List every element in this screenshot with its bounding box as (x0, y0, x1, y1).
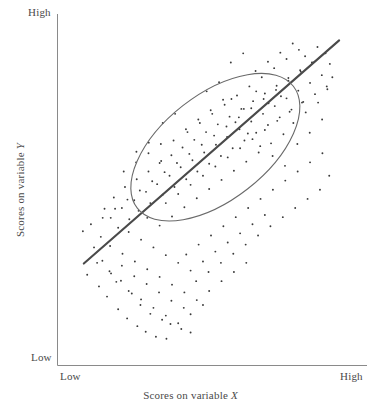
data-point (183, 307, 185, 309)
data-point (146, 283, 148, 285)
data-point (98, 285, 100, 287)
data-point (148, 171, 150, 173)
data-point (140, 298, 142, 300)
data-point (160, 160, 162, 162)
data-point (165, 338, 167, 340)
data-point (102, 217, 104, 219)
data-point (165, 254, 167, 256)
data-point (264, 92, 266, 94)
data-point (242, 52, 244, 54)
data-point (317, 46, 319, 48)
data-point (286, 97, 288, 99)
data-point (224, 104, 226, 106)
data-point (230, 98, 232, 100)
data-point (185, 128, 187, 130)
data-point (309, 132, 311, 134)
data-point (220, 155, 222, 157)
y-axis-title-text: Scores on variable (14, 149, 26, 237)
data-point (272, 155, 274, 157)
data-point (148, 152, 150, 154)
data-point (117, 308, 119, 310)
data-point (190, 270, 192, 272)
data-point (152, 246, 154, 248)
data-points-layer (82, 43, 333, 340)
data-point (215, 144, 217, 146)
data-point (170, 154, 172, 156)
data-point (238, 116, 240, 118)
data-point (301, 102, 303, 104)
data-point (230, 62, 232, 64)
data-point (185, 253, 187, 255)
data-point (106, 296, 108, 298)
data-point (321, 152, 323, 154)
data-point (273, 67, 275, 69)
data-point (247, 207, 249, 209)
data-point (136, 325, 138, 327)
data-point (294, 207, 296, 209)
data-point (227, 242, 229, 244)
data-point (196, 171, 198, 173)
data-point (171, 216, 173, 218)
data-point (232, 253, 234, 255)
data-point (123, 171, 125, 173)
data-point (233, 170, 235, 172)
data-point (126, 317, 128, 319)
data-point (257, 234, 259, 236)
data-point (276, 120, 278, 122)
data-point (177, 322, 179, 324)
data-point (173, 140, 175, 142)
data-point (235, 121, 237, 123)
data-point (260, 198, 262, 200)
data-point (222, 99, 224, 101)
data-point (210, 234, 212, 236)
data-point (201, 144, 203, 146)
data-point (134, 261, 136, 263)
data-point (190, 332, 192, 334)
data-point (211, 113, 213, 115)
data-point (110, 272, 112, 274)
data-point (264, 129, 266, 131)
data-point (214, 251, 216, 253)
data-point (190, 184, 192, 186)
data-point (82, 230, 84, 232)
data-point (222, 225, 224, 227)
data-point (235, 216, 237, 218)
y-axis-title: Scores on variable Y (14, 90, 26, 290)
data-point (245, 244, 247, 246)
data-point (182, 147, 184, 149)
data-point (185, 178, 187, 180)
data-point (140, 239, 142, 241)
data-point (314, 93, 316, 95)
data-point (243, 140, 245, 142)
data-point (159, 276, 161, 278)
data-point (233, 271, 235, 273)
data-point (261, 76, 263, 78)
data-point (109, 270, 111, 272)
data-point (159, 162, 161, 164)
regression-line (84, 40, 339, 263)
data-point (115, 281, 117, 283)
data-point (250, 107, 252, 109)
data-point (113, 197, 115, 199)
data-point (220, 262, 222, 264)
x-axis-low-tick-label: Low (60, 370, 81, 382)
data-point (276, 85, 278, 87)
data-point (121, 207, 123, 209)
data-point (198, 244, 200, 246)
data-point (252, 100, 254, 102)
data-point (298, 49, 300, 51)
data-point (274, 105, 276, 107)
data-point (90, 223, 92, 225)
data-point (171, 284, 173, 286)
data-point (252, 138, 254, 140)
data-point (196, 197, 198, 199)
data-point (245, 161, 247, 163)
data-point (247, 133, 249, 135)
data-point (331, 76, 333, 78)
data-point (93, 246, 95, 248)
scatter-plot-figure: High Low Low High Scores on variable X S… (0, 0, 381, 413)
data-point (279, 52, 281, 54)
data-point (135, 151, 137, 153)
data-point (240, 108, 242, 110)
data-point (309, 82, 311, 84)
